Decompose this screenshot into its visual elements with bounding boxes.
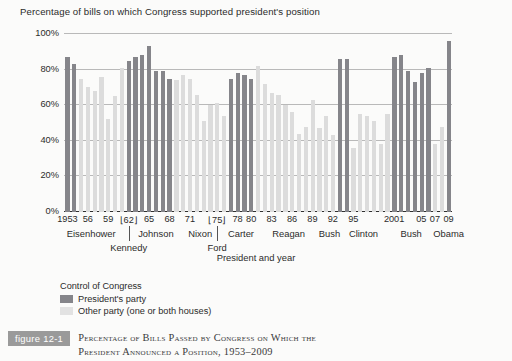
bar-1973 — [202, 121, 206, 212]
x-tick-label-71: 71 — [185, 214, 195, 224]
bar-slot — [241, 34, 248, 212]
bar-1997 — [365, 116, 369, 212]
bar-1958 — [99, 77, 103, 212]
bar-slot — [268, 34, 275, 212]
bar-slot — [153, 34, 160, 212]
bar-1970 — [181, 75, 185, 212]
bar-1990 — [317, 128, 321, 212]
president-label-reagan: Reagan — [272, 228, 305, 239]
chart-title: Percentage of bills on which Congress su… — [20, 6, 320, 17]
bar-2003 — [406, 71, 410, 212]
bar-slot — [289, 34, 296, 212]
legend-label-other-party: Other party (one or both houses) — [78, 306, 211, 316]
figure-panel: Percentage of bills on which Congress su… — [0, 0, 512, 361]
bar-1984 — [276, 95, 280, 212]
bar-1969 — [174, 80, 178, 212]
president-label-nixon: Nixon — [188, 228, 212, 239]
bar-slot — [296, 34, 303, 212]
bar-slot — [139, 34, 146, 212]
x-axis-title: President and year — [0, 252, 512, 263]
bar-slot — [323, 34, 330, 212]
bar-slot — [316, 34, 323, 212]
bar-1977 — [229, 79, 233, 213]
leader-line-kennedy — [129, 226, 130, 241]
bar-1963 — [133, 57, 137, 212]
y-tick-label-20: 20% — [40, 170, 59, 180]
bar-1986 — [290, 112, 294, 212]
bar-1966 — [154, 71, 158, 212]
y-tick-label-60: 60% — [40, 99, 59, 109]
bar-1992 — [331, 135, 335, 212]
bar-slot — [228, 34, 235, 212]
bar-slot — [119, 34, 126, 212]
legend: Control of Congress President's party Ot… — [60, 281, 211, 316]
bar-1967 — [161, 71, 165, 212]
bar-1994 — [345, 59, 349, 212]
bar-1991 — [324, 116, 328, 212]
bar-1956 — [86, 87, 90, 212]
legend-label-president-party: President's party — [78, 294, 146, 304]
x-tick-label-78: 78 — [232, 214, 242, 224]
bar-1976 — [222, 116, 226, 212]
bar-1953 — [65, 57, 69, 212]
x-tick-label-75: ⌊75⌋ — [208, 214, 226, 225]
bar-2005 — [420, 73, 424, 212]
bar-1979 — [242, 75, 246, 212]
president-label-obama: Obama — [433, 228, 464, 239]
bar-slot — [200, 34, 207, 212]
x-tick-label-56: 56 — [83, 214, 93, 224]
x-tick-label-92: 92 — [328, 214, 338, 224]
bar-slot — [432, 34, 439, 212]
bar-slot — [234, 34, 241, 212]
bar-slot — [282, 34, 289, 212]
bar-1981 — [256, 66, 260, 212]
bar-slot — [371, 34, 378, 212]
bar-slot — [64, 34, 71, 212]
legend-item-president-party: President's party — [60, 294, 211, 304]
president-label-clinton: Clinton — [349, 228, 378, 239]
bar-slot — [207, 34, 214, 212]
legend-swatch-other-party — [60, 307, 73, 315]
x-tick-label-86: 86 — [287, 214, 297, 224]
bar-slot — [193, 34, 200, 212]
president-label-carter: Carter — [228, 228, 254, 239]
bar-1974 — [208, 105, 212, 212]
x-tick-label-2001: 2001 — [384, 214, 404, 224]
bar-1980 — [249, 79, 253, 213]
bar-slot — [384, 34, 391, 212]
bar-slot — [173, 34, 180, 212]
x-tick-label-05: 05 — [416, 214, 426, 224]
bar-1999 — [379, 144, 383, 212]
bar-2008 — [440, 127, 444, 212]
bar-slot — [262, 34, 269, 212]
president-label-eisenhower: Eisenhower — [67, 228, 116, 239]
bar-slot — [78, 34, 85, 212]
x-tick-label-62: ⌊62⌋ — [120, 214, 138, 225]
bar-slot — [180, 34, 187, 212]
caption-line-2: President Announced a Position, 1953–200… — [78, 346, 273, 357]
bar-2001 — [392, 57, 396, 212]
bar-1959 — [106, 119, 110, 212]
bar-slot — [418, 34, 425, 212]
bar-1955 — [79, 79, 83, 213]
bar-slot — [357, 34, 364, 212]
bar-slot — [446, 34, 453, 212]
bar-slot — [248, 34, 255, 212]
legend-item-other-party: Other party (one or both houses) — [60, 306, 211, 316]
bar-slot — [343, 34, 350, 212]
bar-slot — [425, 34, 432, 212]
president-label-bush: Bush — [400, 228, 421, 239]
bar-1957 — [93, 91, 97, 212]
bar-slot — [112, 34, 119, 212]
bar-slot — [337, 34, 344, 212]
x-tick-label-59: 59 — [103, 214, 113, 224]
bar-slot — [350, 34, 357, 212]
x-tick-label-83: 83 — [266, 214, 276, 224]
bar-1972 — [195, 95, 199, 212]
bar-1978 — [236, 73, 240, 212]
bar-1954 — [72, 64, 76, 212]
bar-1993 — [338, 59, 342, 212]
bar-2009 — [447, 41, 451, 212]
bar-2000 — [385, 114, 389, 212]
bar-slot — [105, 34, 112, 212]
